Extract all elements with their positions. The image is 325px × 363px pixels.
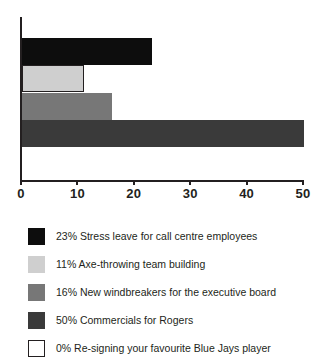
legend-item: 11% Axe-throwing team building bbox=[0, 250, 325, 278]
legend-label: 23% Stress leave for call centre employe… bbox=[56, 230, 257, 243]
legend-swatch-windbreakers bbox=[28, 284, 45, 301]
bar-axe-throwing bbox=[22, 65, 84, 92]
legend-swatch-resigning bbox=[28, 340, 45, 357]
x-axis-tick-label: 30 bbox=[170, 186, 210, 201]
x-axis-tick-mark bbox=[133, 180, 135, 185]
legend-label: 11% Axe-throwing team building bbox=[56, 258, 205, 271]
bar-stress-leave bbox=[22, 38, 152, 65]
legend-swatch-stress-leave bbox=[28, 228, 45, 245]
x-axis-tick-mark bbox=[20, 180, 22, 185]
x-axis-tick-mark bbox=[302, 180, 304, 185]
legend-swatch-axe-throwing bbox=[28, 256, 45, 273]
chart-legend: 23% Stress leave for call centre employe… bbox=[0, 222, 325, 362]
x-axis-tick-mark bbox=[76, 180, 78, 185]
x-axis-line bbox=[20, 180, 304, 182]
x-axis-tick-label: 40 bbox=[227, 186, 267, 201]
bar-chart: 01020304050 bbox=[0, 0, 325, 200]
bars-group bbox=[22, 38, 304, 148]
x-axis-tick-label: 20 bbox=[114, 186, 154, 201]
legend-item: 23% Stress leave for call centre employe… bbox=[0, 222, 325, 250]
x-axis-tick-label: 50 bbox=[283, 186, 323, 201]
legend-label: 0% Re-signing your favourite Blue Jays p… bbox=[56, 342, 271, 355]
legend-label: 50% Commercials for Rogers bbox=[56, 314, 193, 327]
x-axis-tick-mark bbox=[246, 180, 248, 185]
legend-item: 50% Commercials for Rogers bbox=[0, 306, 325, 334]
bar-commercials bbox=[22, 120, 304, 147]
x-axis-tick-label: 0 bbox=[1, 186, 41, 201]
x-axis-tick-mark bbox=[189, 180, 191, 185]
legend-swatch-commercials bbox=[28, 312, 45, 329]
bar-windbreakers bbox=[22, 93, 112, 120]
x-axis-tick-label: 10 bbox=[57, 186, 97, 201]
legend-label: 16% New windbreakers for the executive b… bbox=[56, 286, 276, 299]
legend-item: 16% New windbreakers for the executive b… bbox=[0, 278, 325, 306]
legend-item: 0% Re-signing your favourite Blue Jays p… bbox=[0, 334, 325, 362]
